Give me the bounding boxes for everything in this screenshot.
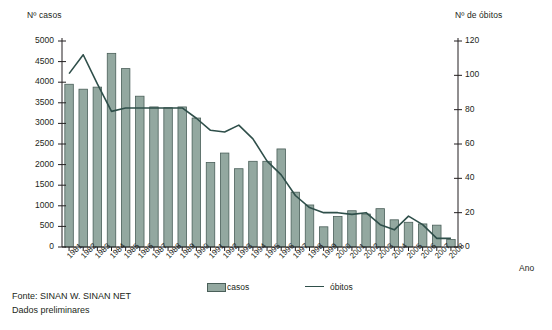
right-tick-100: 100 [465,69,495,79]
bar-1985 [121,69,129,247]
bar-1983 [93,87,101,247]
left-axis-title: Nº casos [27,10,62,20]
bar-1998 [305,205,313,247]
bar-1988 [164,108,172,247]
bar-2004 [390,220,398,247]
left-tick-4500: 4500 [20,56,54,66]
right-tick-60: 60 [465,138,495,148]
legend-obitos-swatch [305,286,324,287]
right-axis-title: Nº de óbitos [455,10,502,20]
bar-2002 [362,214,370,247]
left-tick-3500: 3500 [20,97,54,107]
source-line-2: Dados preliminares [12,305,90,315]
bar-1991 [206,163,214,247]
left-tick-1000: 1000 [20,200,54,210]
axis-lines [58,38,462,251]
left-tick-0: 0 [20,241,54,251]
legend-casos-swatch [207,283,226,292]
bar-1984 [107,53,115,247]
plot-area [0,0,552,330]
left-tick-5000: 5000 [20,35,54,45]
bar-1996 [277,149,285,247]
bar-1994 [249,161,257,247]
bar-2003 [376,209,384,247]
bar-2001 [348,211,356,247]
source-line-1: Fonte: SINAN W. SINAN NET [12,291,131,301]
left-tick-500: 500 [20,220,54,230]
right-tick-80: 80 [465,104,495,114]
legend-obitos-label: óbitos [330,282,353,292]
bar-1992 [220,153,228,247]
bar-1990 [192,118,200,247]
bar-1987 [150,107,158,247]
chart-figure: Nº casos Nº de óbitos Ano 05001000150020… [0,0,552,330]
left-tick-2000: 2000 [20,159,54,169]
right-tick-20: 20 [465,207,495,217]
left-tick-2500: 2500 [20,138,54,148]
bar-1995 [263,161,271,247]
x-axis-title: Ano [519,263,534,273]
right-tick-120: 120 [465,35,495,45]
right-tick-40: 40 [465,172,495,182]
bar-1989 [178,107,186,247]
bar-1981 [65,84,73,247]
bar-1993 [235,169,243,247]
legend-casos-label: casos [227,282,249,292]
right-tick-0: 0 [465,241,495,251]
bar-1997 [291,192,299,247]
left-tick-1500: 1500 [20,179,54,189]
left-tick-3000: 3000 [20,117,54,127]
left-tick-4000: 4000 [20,76,54,86]
bar-1986 [136,96,144,247]
bar-1982 [79,89,87,247]
